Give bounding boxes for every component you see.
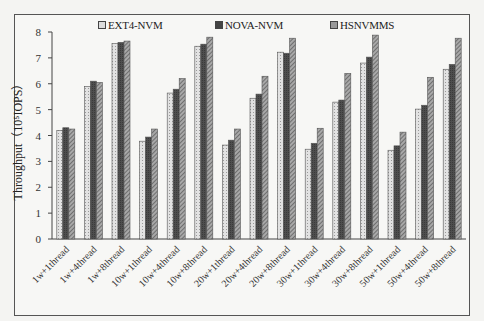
bar-ext4-nvm bbox=[388, 150, 394, 239]
legend-label: NOVA-NVM bbox=[225, 19, 283, 31]
bar-nova-nvm bbox=[422, 105, 428, 239]
bar-chart: 012345678 1w+1thread1w+4thread1w+8thread… bbox=[0, 0, 484, 321]
bar-ext4-nvm bbox=[250, 98, 256, 239]
bar-ext4-nvm bbox=[305, 149, 311, 239]
bar-ext4-nvm bbox=[195, 46, 201, 239]
bar-hsnvmms bbox=[207, 37, 213, 239]
bar-ext4-nvm bbox=[112, 44, 118, 239]
bar-hsnvmms bbox=[317, 128, 323, 239]
bar-ext4-nvm bbox=[333, 102, 339, 239]
bar-hsnvmms bbox=[290, 38, 296, 239]
bar-ext4-nvm bbox=[140, 141, 146, 239]
bar-nova-nvm bbox=[339, 100, 345, 239]
bar-hsnvmms bbox=[234, 129, 240, 239]
bar-ext4-nvm bbox=[278, 52, 284, 239]
legend-item-ext4-nvm: EXT4-NVM bbox=[98, 19, 163, 31]
legend-item-hsnvmms: HSNVMMS bbox=[330, 19, 394, 31]
bar-nova-nvm bbox=[201, 44, 207, 239]
bar-nova-nvm bbox=[63, 128, 69, 239]
bar-ext4-nvm bbox=[84, 86, 90, 239]
bar-ext4-nvm bbox=[167, 93, 173, 239]
bar-nova-nvm bbox=[284, 53, 290, 239]
bar-ext4-nvm bbox=[57, 130, 63, 239]
y-tick-label: 1 bbox=[36, 207, 42, 219]
y-axis-label: Throughput（10⁵IOPS） bbox=[8, 74, 26, 204]
bar-hsnvmms bbox=[372, 35, 378, 239]
y-tick-label: 8 bbox=[36, 26, 42, 38]
bar-hsnvmms bbox=[96, 82, 102, 239]
y-tick-label: 7 bbox=[36, 52, 42, 64]
bar-nova-nvm bbox=[118, 42, 124, 239]
bar-nova-nvm bbox=[173, 89, 179, 239]
bar-nova-nvm bbox=[394, 146, 400, 239]
legend-swatch-icon bbox=[98, 21, 106, 29]
bar-hsnvmms bbox=[345, 73, 351, 239]
legend-label: HSNVMMS bbox=[340, 19, 394, 31]
bar-nova-nvm bbox=[256, 94, 262, 239]
legend-swatch-icon bbox=[330, 21, 338, 29]
legend-label: EXT4-NVM bbox=[108, 19, 163, 31]
bar-hsnvmms bbox=[179, 79, 185, 239]
bar-ext4-nvm bbox=[416, 109, 422, 239]
x-tick-labels: 1w+1thread1w+4thread1w+8thread10w+1threa… bbox=[30, 244, 458, 289]
bar-nova-nvm bbox=[449, 64, 455, 239]
y-tick-label: 3 bbox=[36, 155, 42, 167]
bar-ext4-nvm bbox=[443, 69, 449, 239]
y-tick-label: 4 bbox=[36, 130, 42, 142]
legend-swatch-icon bbox=[215, 21, 223, 29]
bar-ext4-nvm bbox=[222, 145, 228, 239]
bar-nova-nvm bbox=[228, 140, 234, 239]
bar-hsnvmms bbox=[400, 132, 406, 239]
bar-nova-nvm bbox=[90, 81, 96, 239]
bar-nova-nvm bbox=[311, 143, 317, 239]
bar-hsnvmms bbox=[124, 41, 130, 239]
y-tick-label: 5 bbox=[36, 104, 42, 116]
bar-hsnvmms bbox=[152, 129, 158, 239]
y-tick-label: 6 bbox=[36, 78, 42, 90]
bar-hsnvmms bbox=[262, 76, 268, 239]
bar-nova-nvm bbox=[146, 137, 152, 239]
bar-hsnvmms bbox=[69, 129, 75, 239]
y-tick-label: 0 bbox=[36, 233, 42, 245]
bar-nova-nvm bbox=[366, 57, 372, 239]
legend-item-nova-nvm: NOVA-NVM bbox=[215, 19, 283, 31]
bar-hsnvmms bbox=[428, 77, 434, 239]
y-tick-label: 2 bbox=[36, 181, 42, 193]
bars bbox=[57, 35, 461, 239]
bar-ext4-nvm bbox=[360, 63, 366, 239]
bar-hsnvmms bbox=[455, 38, 461, 239]
